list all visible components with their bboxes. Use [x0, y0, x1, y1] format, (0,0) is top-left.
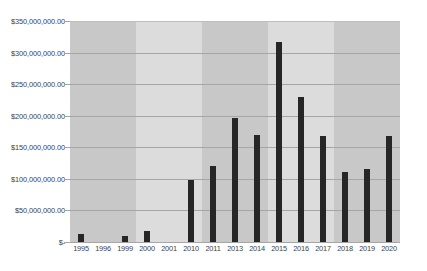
bar-slot	[136, 21, 158, 242]
bar-slot	[158, 21, 180, 242]
bar[interactable]	[210, 166, 216, 242]
y-tick-label: $200,000,000.00	[11, 111, 65, 120]
bar[interactable]	[298, 97, 304, 242]
bar-slot	[356, 21, 378, 242]
y-tick-label: $100,000,000.00	[11, 174, 65, 183]
y-axis: $-$50,000,000.00$100,000,000.00$150,000,…	[0, 0, 68, 250]
x-tick-label: 2015	[268, 244, 290, 253]
x-tick-label: 2017	[312, 244, 334, 253]
plot-area	[70, 21, 400, 242]
bar[interactable]	[254, 135, 260, 242]
bar-chart: $-$50,000,000.00$100,000,000.00$150,000,…	[0, 0, 427, 271]
x-tick-label: 2016	[290, 244, 312, 253]
bar[interactable]	[320, 136, 326, 242]
bar-slot	[334, 21, 356, 242]
bar[interactable]	[188, 180, 194, 243]
x-axis: 1995199619992000200120102011201320142015…	[70, 244, 400, 253]
y-tick-label: $250,000,000.00	[11, 80, 65, 89]
bar-slot	[92, 21, 114, 242]
bar-slot	[224, 21, 246, 242]
x-axis-line	[70, 242, 400, 243]
y-tick-label: $150,000,000.00	[11, 143, 65, 152]
bar[interactable]	[386, 136, 392, 242]
y-tick-label: $300,000,000.00	[11, 48, 65, 57]
bar-series	[70, 21, 400, 242]
bar[interactable]	[78, 234, 84, 242]
bar-slot	[312, 21, 334, 242]
x-tick-label: 2000	[136, 244, 158, 253]
x-tick-label: 1995	[70, 244, 92, 253]
y-tick-label: $350,000,000.00	[11, 17, 65, 26]
x-tick-label: 2020	[378, 244, 400, 253]
x-tick-label: 1996	[92, 244, 114, 253]
bar[interactable]	[144, 231, 150, 242]
bar-slot	[70, 21, 92, 242]
bar-slot	[378, 21, 400, 242]
bar-slot	[180, 21, 202, 242]
x-tick-label: 2018	[334, 244, 356, 253]
bar[interactable]	[364, 169, 370, 242]
bar[interactable]	[276, 42, 282, 242]
bar-slot	[290, 21, 312, 242]
x-tick-label: 2001	[158, 244, 180, 253]
x-tick-label: 2011	[202, 244, 224, 253]
x-tick-label: 2010	[180, 244, 202, 253]
bar-slot	[114, 21, 136, 242]
bar-slot	[268, 21, 290, 242]
bar[interactable]	[232, 118, 238, 242]
x-tick-label: 2013	[224, 244, 246, 253]
y-tick-label: $50,000,000.00	[15, 206, 65, 215]
x-tick-label: 1999	[114, 244, 136, 253]
x-tick-label: 2014	[246, 244, 268, 253]
bar[interactable]	[342, 172, 348, 242]
bar-slot	[246, 21, 268, 242]
bar-slot	[202, 21, 224, 242]
x-tick-label: 2019	[356, 244, 378, 253]
